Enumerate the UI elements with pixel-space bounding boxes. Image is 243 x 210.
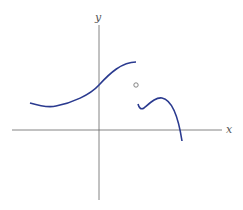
- function-graph: x y: [0, 0, 243, 210]
- right-curve: [138, 98, 182, 141]
- x-axis-label: x: [226, 123, 233, 136]
- left-curve: [30, 62, 136, 107]
- y-axis-label: y: [94, 11, 102, 24]
- open-point: [134, 83, 138, 87]
